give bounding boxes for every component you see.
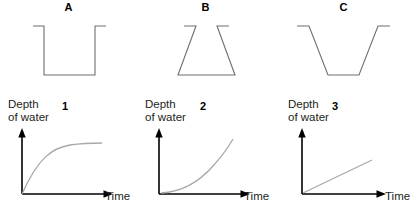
y-axis-label-a: Depth of water xyxy=(8,98,49,124)
y-axis-label-b-line1: Depth xyxy=(145,98,186,111)
y-axis-arrowhead-3 xyxy=(298,128,305,138)
graph-number-1: 1 xyxy=(62,100,68,112)
panel-b: B Depth of water 2 Time xyxy=(137,0,274,208)
container-label-b: B xyxy=(137,1,274,13)
x-axis-label-c: Time xyxy=(385,190,410,203)
container-label-c: C xyxy=(275,1,412,13)
graph-number-3: 3 xyxy=(332,100,338,112)
x-axis-label-a: Time xyxy=(105,190,130,203)
curve-2 xyxy=(161,139,233,193)
vessel-shape-a xyxy=(0,14,137,82)
graph-number-2: 2 xyxy=(200,100,206,112)
figure-container-water-depth: A Depth of water 1 Time B Depth xyxy=(0,0,412,208)
y-axis-label-a-line1: Depth xyxy=(8,98,49,111)
y-axis-label-c-line1: Depth xyxy=(288,98,329,111)
vessel-shape-c xyxy=(275,14,412,82)
y-axis-arrowhead-1 xyxy=(18,128,25,138)
y-axis-label-c: Depth of water xyxy=(288,98,329,124)
x-axis-label-b: Time xyxy=(244,190,269,203)
panel-c: C Depth of water 3 Time xyxy=(275,0,412,208)
y-axis-label-b: Depth of water xyxy=(145,98,186,124)
vessel-shape-b xyxy=(137,14,274,82)
panel-a: A Depth of water 1 Time xyxy=(0,0,137,208)
y-axis-arrowhead-2 xyxy=(155,128,162,138)
curve-3 xyxy=(303,160,372,193)
curve-1 xyxy=(22,143,102,194)
container-label-a: A xyxy=(0,1,137,13)
